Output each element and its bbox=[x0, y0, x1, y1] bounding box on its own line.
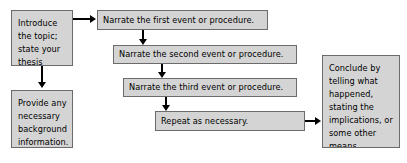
node-text-line: information. bbox=[18, 136, 67, 148]
flowchart-node-third-event: Narrate the third event or procedure. bbox=[123, 78, 297, 97]
node-text-line: stating the bbox=[329, 101, 394, 114]
node-text-line: happened, bbox=[329, 88, 394, 101]
node-text-line: telling what bbox=[329, 75, 394, 88]
arrowhead-right-icon bbox=[90, 15, 96, 23]
connector-line bbox=[73, 18, 91, 20]
node-text-line: state your bbox=[18, 43, 67, 56]
node-text-line: means. bbox=[329, 140, 394, 148]
arrowhead-down-icon bbox=[139, 39, 147, 45]
node-text-line: thesis bbox=[18, 56, 67, 66]
flowchart-node-second-event: Narrate the second event or procedure. bbox=[113, 45, 297, 64]
node-text-line: Narrate the second event or procedure. bbox=[119, 48, 283, 61]
arrowhead-down-icon bbox=[38, 82, 46, 88]
flowchart-node-introduce: Introduce the topic; state your thesis bbox=[11, 10, 73, 66]
node-text-line: background bbox=[18, 123, 67, 136]
connector-line bbox=[41, 66, 43, 83]
node-text-line: Narrate the first event or procedure. bbox=[103, 14, 254, 27]
arrowhead-right-icon bbox=[315, 117, 321, 125]
node-text-line: Narrate the third event or procedure. bbox=[129, 81, 283, 94]
node-text-line: the topic; bbox=[18, 30, 67, 43]
arrowhead-down-icon bbox=[162, 105, 170, 111]
node-text-line: some other bbox=[329, 127, 394, 140]
flowchart-node-first-event: Narrate the first event or procedure. bbox=[97, 10, 268, 30]
flowchart-diagram: Introduce the topic; state your thesis P… bbox=[0, 0, 407, 163]
node-text-line: Repeat as necessary. bbox=[161, 115, 248, 128]
flowchart-node-repeat: Repeat as necessary. bbox=[155, 111, 305, 131]
arrowhead-down-icon bbox=[158, 72, 166, 78]
node-text-line: Provide any bbox=[18, 97, 67, 110]
node-text-line: Conclude by bbox=[329, 62, 394, 75]
flowchart-node-background: Provide any necessary background informa… bbox=[11, 90, 73, 148]
node-text-line: implications, or bbox=[329, 114, 394, 127]
node-text-line: Introduce bbox=[18, 17, 67, 30]
node-text-line: necessary bbox=[18, 110, 67, 123]
flowchart-node-conclude: Conclude by telling what happened, stati… bbox=[322, 55, 400, 148]
